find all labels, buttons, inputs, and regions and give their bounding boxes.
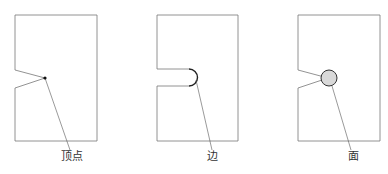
- highlighted-face[interactable]: [321, 70, 337, 86]
- leader-line: [332, 86, 351, 150]
- leader-line: [45, 78, 70, 150]
- feature-diagram: [0, 0, 388, 174]
- panel-edge: [157, 15, 238, 150]
- vertex-dot[interactable]: [43, 76, 46, 79]
- panel-face: [298, 15, 380, 150]
- notched-rectangle-outline: [15, 15, 97, 141]
- highlighted-arc-edge[interactable]: [189, 69, 198, 86]
- label-vertex: 顶点: [61, 151, 83, 163]
- label-edge: 边: [207, 151, 218, 163]
- leader-line: [196, 80, 212, 150]
- notched-rectangle-outline: [298, 15, 380, 141]
- label-face: 面: [348, 151, 359, 163]
- panel-vertex: [15, 15, 97, 150]
